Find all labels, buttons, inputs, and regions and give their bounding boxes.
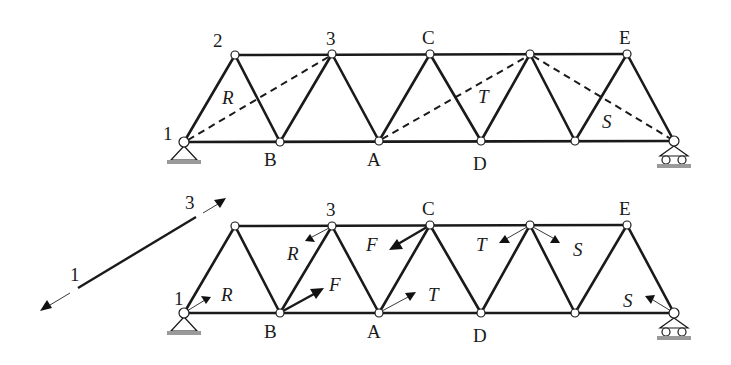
pin-support-left: [167, 146, 201, 164]
label-node-1: 1: [163, 123, 173, 144]
diagonal: [575, 225, 627, 313]
joint-A: [375, 309, 383, 317]
label-line-end: 3: [185, 192, 195, 213]
label-force-S-at-support: S: [623, 290, 633, 311]
label-force-T-at-A: T: [428, 284, 440, 305]
diagonal: [379, 225, 430, 313]
joint-top4: [526, 221, 534, 229]
label-force-R-at-1: R: [220, 284, 233, 305]
joint-3: [328, 222, 336, 230]
arrowhead-down-left-icon: [40, 300, 52, 311]
label-force-R-at-3: R: [286, 243, 299, 264]
side-member-line: 1 3: [40, 192, 226, 311]
label-force-F-at-C: F: [365, 234, 378, 255]
arrowhead-icon: [405, 292, 416, 301]
label-node-1: 1: [174, 288, 184, 309]
joint-E: [623, 50, 631, 58]
label-node-3: 3: [326, 28, 336, 49]
joint-right-support: [669, 136, 679, 146]
joint-B: [276, 309, 284, 317]
solid-member-segment: [78, 217, 196, 288]
joint-D: [477, 309, 485, 317]
label-force-S-at-top4: S: [573, 239, 583, 260]
joint-A: [375, 137, 383, 145]
joint-E: [623, 221, 631, 229]
label-section-T: T: [478, 86, 490, 107]
label-section-R: R: [221, 87, 234, 108]
label-node-C: C: [422, 27, 435, 48]
joint-1: [179, 137, 189, 147]
label-node-3: 3: [326, 199, 336, 220]
arrow-shaft-start: [50, 293, 70, 305]
label-node-B: B: [264, 321, 277, 342]
roller-support-right: [657, 318, 691, 340]
diagonal: [379, 54, 430, 141]
label-section-S: S: [602, 111, 612, 132]
label-node-A: A: [367, 149, 381, 170]
arrowhead-icon: [201, 296, 211, 304]
arrowhead-icon: [389, 239, 403, 250]
diagonal: [235, 55, 280, 142]
label-node-E: E: [619, 27, 631, 48]
bottom-chord: [184, 141, 674, 142]
arrowhead-icon: [310, 288, 324, 299]
joint-top4: [526, 50, 534, 58]
joint-right-support: [669, 308, 679, 318]
arrowhead-icon: [499, 235, 510, 243]
label-node-D: D: [473, 153, 487, 174]
joint-D: [477, 137, 485, 145]
joint-3: [328, 50, 336, 58]
arrow-shaft-end: [203, 204, 218, 213]
joint-2: [231, 51, 239, 59]
diagonal: [280, 226, 332, 313]
label-node-E: E: [619, 198, 631, 219]
joint-bottom5: [571, 137, 579, 145]
diagonal: [235, 226, 280, 313]
arrowhead-icon: [305, 234, 315, 242]
arrowhead-up-right-icon: [214, 198, 226, 208]
diagonal: [575, 54, 627, 141]
diagonal: [280, 54, 332, 142]
top-truss: 1 2 3 C E B A D R T S: [163, 27, 691, 174]
pin-support-left: [167, 317, 201, 335]
roller-support-right: [657, 146, 691, 168]
joint-B: [276, 138, 284, 146]
bottom-truss: 1 3 C E B A D R R F F T T S S: [167, 198, 691, 346]
arrowhead-icon: [550, 235, 560, 243]
label-force-F-at-B: F: [328, 274, 341, 295]
joint-C: [426, 221, 434, 229]
joint-bottom5: [571, 309, 579, 317]
label-node-D: D: [473, 325, 487, 346]
joint-C: [426, 50, 434, 58]
diagonal: [530, 54, 575, 141]
diagonal: [627, 54, 674, 141]
label-line-start: 1: [70, 264, 80, 285]
joint-1: [179, 308, 189, 318]
diagonal: [332, 54, 379, 141]
label-node-B: B: [264, 149, 277, 170]
label-force-T-at-top4: T: [476, 234, 488, 255]
truss-diagram: 1 2 3 C E B A D R T S 1 3: [0, 0, 731, 365]
label-node-A: A: [367, 321, 381, 342]
joint-2: [231, 222, 239, 230]
label-node-2: 2: [213, 30, 223, 51]
label-node-C: C: [422, 198, 435, 219]
arrowhead-icon: [645, 295, 655, 304]
